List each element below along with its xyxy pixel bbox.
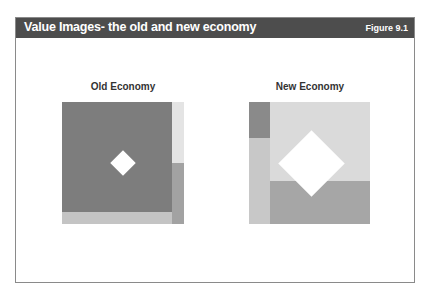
new-economy-image xyxy=(249,102,370,224)
old-economy-label: Old Economy xyxy=(62,81,184,92)
new-economy-label: New Economy xyxy=(249,81,371,92)
new-left-top-block xyxy=(249,102,270,138)
figure-number: Figure 9.1 xyxy=(365,23,408,33)
old-economy-image xyxy=(62,102,184,224)
old-right-top-block xyxy=(172,102,184,163)
figure-title: Value Images- the old and new economy xyxy=(24,20,256,34)
new-left-bottom-block xyxy=(249,138,270,224)
figure-header: Value Images- the old and new economy Fi… xyxy=(16,18,414,38)
old-bottom-block xyxy=(62,212,172,224)
old-right-bottom-block xyxy=(172,163,184,224)
